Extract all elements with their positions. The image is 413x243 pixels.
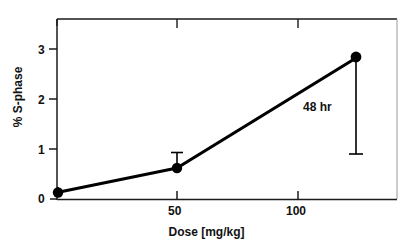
y-tick-label-1: 1 bbox=[38, 144, 45, 156]
x-axis bbox=[57, 191, 397, 200]
x-tick-label-50: 50 bbox=[168, 205, 181, 217]
data-markers bbox=[53, 52, 362, 198]
chart-plot-area bbox=[0, 0, 413, 243]
y-axis-title-wrapper: % S-phase bbox=[8, 52, 26, 142]
y-tick-label-3: 3 bbox=[38, 44, 45, 56]
y-tick-label-0: 0 bbox=[38, 193, 45, 205]
top-axis-frame bbox=[57, 19, 397, 199]
data-line-48hr bbox=[57, 58, 356, 193]
data-point-dose-50 bbox=[172, 163, 182, 173]
y-axis-title: % S-phase bbox=[11, 67, 25, 128]
error-bars bbox=[58, 58, 363, 197]
figure-container: 0 1 2 3 50 100 % S-phase Dose [mg/kg] 48… bbox=[0, 0, 413, 243]
y-axis bbox=[49, 19, 57, 200]
y-tick-label-2: 2 bbox=[38, 94, 45, 106]
series-annotation-48hr: 48 hr bbox=[303, 101, 332, 113]
x-axis-title-wrapper: Dose [mg/kg] bbox=[0, 222, 413, 240]
x-tick-label-100: 100 bbox=[286, 205, 306, 217]
data-point-dose-125 bbox=[351, 52, 362, 63]
x-axis-title: Dose [mg/kg] bbox=[168, 225, 244, 239]
data-point-dose-0 bbox=[53, 187, 63, 197]
